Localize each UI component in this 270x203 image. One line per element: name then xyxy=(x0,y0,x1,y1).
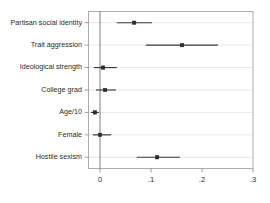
point-estimate-marker xyxy=(132,21,135,24)
point-estimate-marker xyxy=(155,156,158,159)
y-tick-label: Female xyxy=(58,130,82,139)
coefficient-plot: Partisan social identityTrait aggression… xyxy=(0,0,270,203)
y-tick-label: College grad xyxy=(41,85,82,94)
y-tick-label: Age/10 xyxy=(59,107,82,116)
point-estimate-marker xyxy=(103,88,106,91)
x-tick-label: .2 xyxy=(199,175,205,184)
point-estimate-marker xyxy=(93,111,96,114)
coefficient-plot-canvas: Partisan social identityTrait aggression… xyxy=(0,0,270,203)
plot-background xyxy=(0,0,270,203)
y-tick-label: Ideological strength xyxy=(20,62,82,71)
y-tick-label: Partisan social identity xyxy=(10,18,82,27)
point-estimate-marker xyxy=(180,43,183,46)
x-tick-label: .1 xyxy=(148,175,154,184)
x-tick-label: .3 xyxy=(250,175,256,184)
y-tick-label: Trait aggression xyxy=(31,40,82,49)
point-estimate-marker xyxy=(98,133,101,136)
y-tick-label: Hostile sexism xyxy=(36,152,82,161)
point-estimate-marker xyxy=(101,66,104,69)
x-tick-label: 0 xyxy=(98,175,102,184)
